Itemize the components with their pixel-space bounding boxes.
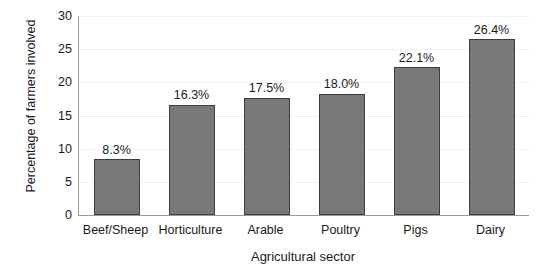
bar-value-label: 17.5% <box>249 82 284 95</box>
bar[interactable]: 26.4% <box>469 39 515 215</box>
bar-value-label: 22.1% <box>399 52 434 65</box>
y-axis-tick-label: 0 <box>44 209 72 222</box>
bar[interactable]: 17.5% <box>244 98 290 215</box>
y-axis-tick-label: 25 <box>44 43 72 56</box>
x-axis-tick-label: Beef/Sheep <box>78 222 153 242</box>
bar-value-label: 16.3% <box>174 89 209 102</box>
y-axis-tick-labels: 051015202530 <box>44 8 72 224</box>
plot-area: 8.3%16.3%17.5%18.0%22.1%26.4% <box>78 16 529 216</box>
y-axis-tick-label: 5 <box>44 176 72 189</box>
bar-value-label: 18.0% <box>324 78 359 91</box>
y-axis-tick-label: 20 <box>44 76 72 89</box>
y-axis-tick-label: 30 <box>44 10 72 23</box>
bar-value-label: 8.3% <box>102 144 131 157</box>
bar-slot: 8.3% <box>79 16 154 215</box>
y-axis-tick-label: 15 <box>44 109 72 122</box>
bar-chart: Percentage of farmers involved 051015202… <box>0 0 552 274</box>
x-axis-tick-label: Poultry <box>303 222 378 242</box>
bar[interactable]: 18.0% <box>319 94 365 215</box>
x-axis-tick-label: Pigs <box>378 222 453 242</box>
bar[interactable]: 16.3% <box>169 105 215 215</box>
bar-value-label: 26.4% <box>474 24 509 37</box>
bar-slot: 22.1% <box>379 16 454 215</box>
bar-slot: 17.5% <box>229 16 304 215</box>
bar[interactable]: 22.1% <box>394 67 440 215</box>
x-axis-tick-label: Arable <box>228 222 303 242</box>
x-axis-title: Agricultural sector <box>78 248 528 266</box>
bar-slot: 26.4% <box>454 16 529 215</box>
x-axis-tick-labels: Beef/SheepHorticultureArablePoultryPigsD… <box>78 222 528 242</box>
x-axis-tick-label: Horticulture <box>153 222 228 242</box>
y-axis-title: Percentage of farmers involved <box>22 0 40 216</box>
x-axis-tick-label: Dairy <box>453 222 528 242</box>
bar-slot: 18.0% <box>304 16 379 215</box>
y-axis-tick-label: 10 <box>44 142 72 155</box>
bar-slot: 16.3% <box>154 16 229 215</box>
bars-group: 8.3%16.3%17.5%18.0%22.1%26.4% <box>79 16 529 215</box>
bar[interactable]: 8.3% <box>94 159 140 215</box>
